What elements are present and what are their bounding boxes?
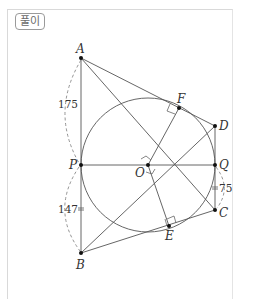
point-D	[213, 124, 217, 128]
segment-OE	[148, 165, 169, 226]
segment-OF	[148, 108, 179, 165]
point-F	[177, 106, 181, 110]
segment-BC	[81, 210, 215, 253]
label-C: C	[219, 206, 228, 220]
segment-AD	[81, 58, 215, 126]
measure-QC: 75	[219, 182, 232, 194]
point-O	[146, 163, 150, 167]
label-P: P	[68, 158, 78, 172]
segment-AC	[81, 58, 215, 210]
point-B	[79, 251, 83, 255]
label-F: F	[176, 92, 186, 106]
label-D: D	[218, 119, 229, 133]
right-angle-marker-E	[167, 216, 176, 223]
dashed-arc-AP	[65, 60, 81, 163]
label-Q: Q	[219, 158, 229, 172]
label-O: O	[135, 166, 145, 180]
measure-AP: 175	[58, 98, 78, 110]
label-A: A	[75, 42, 85, 56]
point-P	[79, 163, 83, 167]
measure-BP: 147	[58, 203, 78, 215]
point-C	[213, 208, 217, 212]
right-angle-marker-O-top	[141, 156, 151, 160]
label-B: B	[75, 258, 85, 272]
point-E	[167, 224, 171, 228]
segment-BD	[81, 126, 215, 253]
point-A	[79, 56, 83, 60]
label-E: E	[164, 229, 174, 243]
point-Q	[213, 163, 217, 167]
